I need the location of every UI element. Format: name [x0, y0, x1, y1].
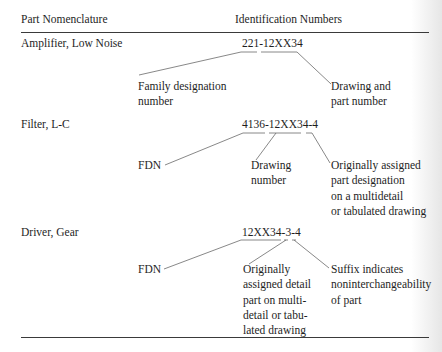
part-name: Filter, L-C	[21, 117, 70, 132]
leader-family	[139, 52, 241, 75]
leader-detail	[249, 240, 286, 264]
bottom-rule	[21, 337, 429, 338]
leader-drawing	[297, 52, 331, 84]
annotation: Drawing and part number	[331, 79, 391, 110]
annotation: Family designation number	[138, 79, 226, 110]
id-number: 221-12XX34	[242, 36, 303, 51]
annotation: Suffix indicates noninterchangeability o…	[331, 262, 431, 308]
id-number: 4136-12XX34-4	[242, 117, 318, 132]
annotation: Originally assigned detail part on multi…	[243, 262, 311, 338]
leader-fdn	[165, 133, 243, 165]
leader-drawing-number	[256, 133, 276, 160]
annotation: FDN	[138, 262, 161, 277]
part-name: Driver, Gear	[21, 225, 79, 240]
leader-original	[312, 133, 330, 163]
annotation: Drawing number	[251, 158, 291, 189]
annotation: FDN	[138, 158, 161, 173]
leader-fdn	[164, 240, 241, 269]
annotation: Originally assigned part designation on …	[331, 158, 426, 219]
part-name: Amplifier, Low Noise	[21, 36, 122, 51]
id-number: 12XX34-3-4	[242, 225, 301, 240]
